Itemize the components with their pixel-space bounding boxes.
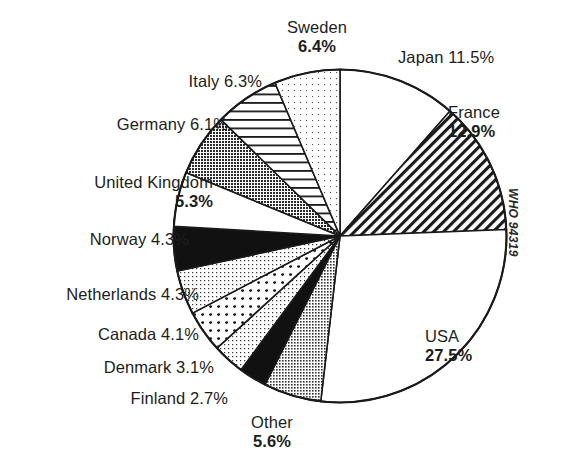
- slice-label-usa-pct: 27.5%: [425, 346, 472, 364]
- slice-label-usa: USA 27.5%: [425, 327, 545, 365]
- slice-label-usa-name: USA: [425, 327, 459, 345]
- slice-label-uk-pct: 5.3%: [175, 192, 213, 210]
- slice-label-other-name: Other: [251, 413, 293, 431]
- pie-slice-usa[interactable]: [321, 229, 507, 402]
- slice-label-netherlands: Netherlands 4.3%: [0, 285, 199, 304]
- slice-label-other-pct: 5.6%: [253, 432, 291, 450]
- figure-canvas: Sweden 6.4% Japan 11.5% Italy 6.3% Franc…: [0, 0, 566, 469]
- slice-label-finland: Finland 2.7%: [48, 389, 228, 408]
- slice-label-france-pct: 12.9%: [448, 122, 495, 140]
- slice-label-sweden-pct: 6.4%: [298, 37, 336, 55]
- slice-label-other: Other 5.6%: [212, 413, 332, 451]
- slice-label-germany: Germany 6.1%: [28, 115, 228, 134]
- source-code-who: WHO 94319: [506, 188, 520, 257]
- slice-label-united-kingdom: United Kingdom 5.3%: [5, 173, 213, 211]
- slice-label-italy: Italy 6.3%: [98, 72, 262, 91]
- slice-label-france-name: France: [448, 103, 500, 121]
- slice-label-france: France 12.9%: [448, 103, 560, 141]
- slice-label-japan: Japan 11.5%: [398, 48, 494, 67]
- slice-label-canada: Canada 4.1%: [30, 325, 199, 344]
- slice-label-denmark: Denmark 3.1%: [40, 358, 214, 377]
- slice-label-sweden-name: Sweden: [287, 18, 347, 36]
- slice-label-sweden: Sweden 6.4%: [247, 18, 387, 56]
- slice-label-norway: Norway 4.3%: [6, 230, 189, 249]
- slice-label-uk-name: United Kingdom: [94, 173, 213, 191]
